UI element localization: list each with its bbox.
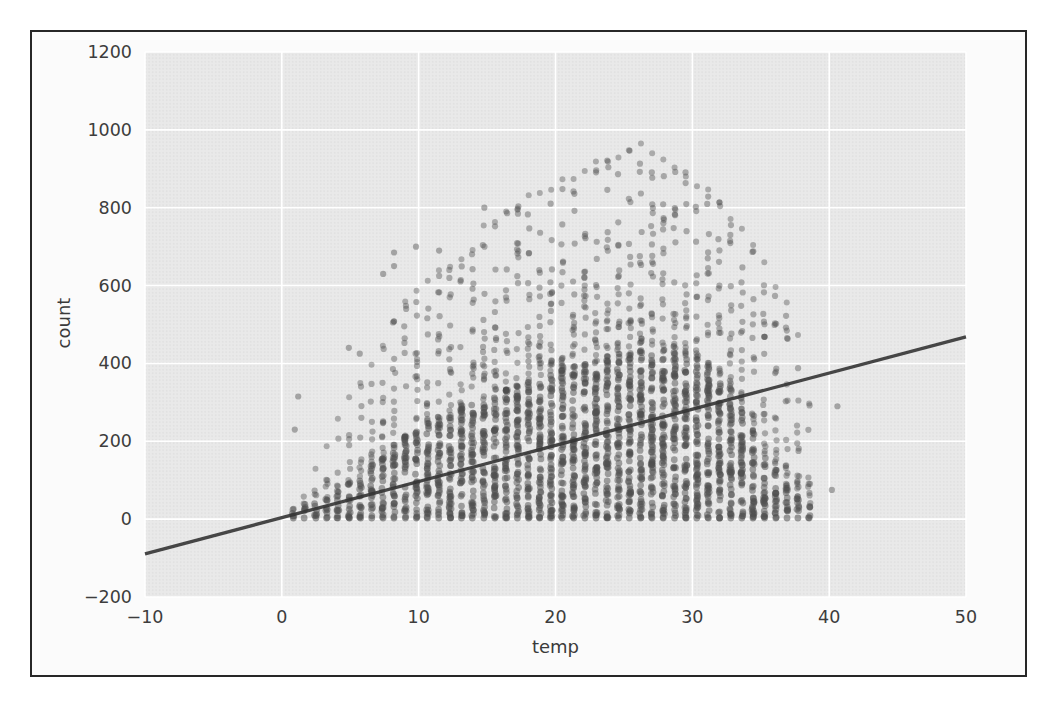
scatter-point — [582, 304, 588, 310]
scatter-point — [739, 319, 745, 325]
scatter-point — [570, 351, 576, 357]
scatter-point — [504, 338, 510, 344]
scatter-point — [502, 497, 509, 504]
scatter-point — [369, 362, 375, 368]
scatter-point — [705, 193, 711, 199]
scatter-point — [794, 429, 800, 435]
scatter-point — [548, 301, 554, 307]
scatter-point — [582, 168, 588, 174]
scatter-point — [794, 515, 801, 522]
scatter-point — [537, 190, 543, 196]
scatter-point — [638, 190, 644, 196]
scatter-point — [492, 474, 499, 481]
scatter-point — [605, 237, 611, 243]
scatter-point — [582, 510, 589, 517]
scatter-point — [547, 421, 554, 428]
scatter-point — [515, 504, 522, 511]
scatter-point — [604, 317, 610, 323]
scatter-point — [414, 447, 421, 454]
scatter-point — [538, 456, 545, 463]
scatter-point — [683, 495, 690, 502]
scatter-point — [424, 384, 430, 390]
scatter-point — [593, 352, 599, 358]
scatter-point — [683, 228, 689, 234]
scatter-point — [717, 411, 724, 418]
scatter-point — [751, 369, 757, 375]
scatter-point — [368, 506, 375, 513]
scatter-point — [570, 385, 577, 392]
scatter-point — [683, 173, 689, 179]
scatter-point — [470, 493, 477, 500]
scatter-point — [739, 226, 745, 232]
scatter-point — [603, 460, 610, 467]
scatter-point — [369, 512, 376, 519]
scatter-point — [739, 347, 745, 353]
scatter-point — [514, 207, 520, 213]
scatter-point — [570, 493, 577, 500]
scatter-point — [446, 432, 453, 439]
scatter-point — [637, 169, 643, 175]
scatter-point — [783, 483, 789, 489]
scatter-point — [671, 501, 678, 508]
scatter-point — [571, 473, 578, 480]
scatter-point — [492, 430, 499, 437]
scatter-point — [834, 403, 840, 409]
scatter-point — [604, 453, 611, 460]
scatter-point — [593, 169, 599, 175]
scatter-point — [660, 397, 667, 404]
scatter-point — [660, 226, 666, 232]
scatter-point — [740, 509, 747, 516]
scatter-point — [525, 422, 532, 429]
scatter-point — [695, 501, 702, 508]
scatter-point — [604, 158, 610, 164]
scatter-point — [683, 313, 689, 319]
scatter-point — [592, 385, 599, 392]
scatter-point — [672, 486, 679, 493]
scatter-point — [581, 390, 588, 397]
scatter-point — [536, 314, 542, 320]
scatter-point — [525, 465, 532, 472]
scatter-point — [740, 289, 746, 295]
scatter-point — [559, 388, 566, 395]
scatter-point — [684, 323, 690, 329]
scatter-point — [683, 201, 689, 207]
scatter-point — [728, 222, 734, 228]
scatter-point — [795, 365, 801, 371]
scatter-point — [660, 215, 666, 221]
scatter-point — [649, 427, 656, 434]
scatter-point — [559, 488, 566, 495]
scatter-point — [761, 319, 767, 325]
scatter-point — [547, 412, 554, 419]
scatter-point — [682, 388, 689, 395]
scatter-point — [594, 284, 600, 290]
scatter-point — [559, 176, 565, 182]
scatter-point — [346, 436, 352, 442]
scatter-point — [683, 291, 689, 297]
scatter-point — [513, 375, 519, 381]
scatter-point — [705, 471, 712, 478]
scatter-point — [603, 514, 610, 521]
scatter-point — [414, 350, 420, 356]
scatter-point — [728, 380, 734, 386]
scatter-point — [470, 488, 477, 495]
scatter-point — [514, 360, 520, 366]
scatter-point — [614, 391, 621, 398]
scatter-point — [346, 503, 353, 510]
scatter-point — [716, 497, 723, 504]
scatter-point — [637, 442, 644, 449]
scatter-point — [503, 348, 509, 354]
scatter-point — [391, 500, 398, 507]
scatter-point — [672, 206, 678, 212]
scatter-point — [638, 434, 645, 441]
scatter-point — [796, 473, 802, 479]
scatter-point — [616, 416, 623, 423]
scatter-point — [347, 466, 353, 472]
scatter-point — [369, 428, 375, 434]
scatter-point — [312, 491, 318, 497]
scatter-point — [335, 483, 341, 489]
scatter-point — [728, 512, 735, 519]
scatter-point — [615, 274, 621, 280]
scatter-point — [806, 401, 812, 407]
scatter-point — [626, 290, 632, 296]
scatter-point — [716, 436, 723, 443]
